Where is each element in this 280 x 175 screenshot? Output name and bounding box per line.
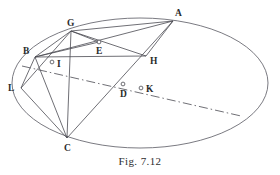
point-label-c: C	[64, 144, 71, 154]
point-label-l: L	[8, 84, 15, 94]
point-label-g: G	[67, 19, 75, 29]
chord-segments-group	[21, 21, 173, 138]
figure-caption: Fig. 7.12	[0, 155, 280, 167]
conic-outline-group	[12, 18, 268, 148]
point-label-e: E	[96, 47, 103, 57]
chord-B-H	[35, 56, 146, 57]
chord-G-H	[71, 31, 146, 56]
point-label-d: D	[120, 90, 127, 100]
chord-B-E	[35, 42, 99, 57]
point-marker-i	[50, 60, 54, 64]
chord-A-H	[146, 21, 173, 56]
point-label-k: K	[146, 85, 154, 95]
chord-G-A	[71, 21, 173, 31]
geometry-diagram	[0, 0, 280, 175]
point-label-b: B	[23, 47, 30, 57]
axis-line-group	[22, 66, 241, 116]
chord-L-G	[21, 31, 71, 88]
point-marker-e	[97, 40, 101, 44]
chord-L-C	[21, 88, 67, 138]
axis-through-D-K	[22, 66, 241, 116]
chord-B-C	[35, 57, 67, 138]
chord-E-G	[71, 31, 99, 42]
point-label-i: I	[57, 60, 61, 70]
conic-outline	[12, 18, 268, 148]
chord-G-C	[67, 31, 71, 138]
chord-B-A	[35, 21, 173, 57]
point-marker-d	[121, 82, 125, 86]
point-label-a: A	[175, 9, 182, 19]
point-label-h: H	[150, 57, 158, 67]
chord-B-L	[21, 57, 35, 88]
figure-container: AGBEHILDKC Fig. 7.12	[0, 0, 280, 175]
point-marker-k	[139, 86, 143, 90]
